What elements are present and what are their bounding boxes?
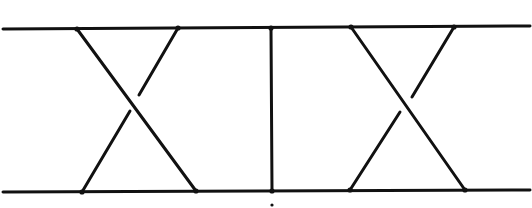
horizontal-lines [3,26,530,192]
left-crossing-under-strand-bottom [82,111,130,192]
right-crossing-under-strand-bottom [350,112,400,190]
node-dot [193,188,198,193]
left-crossing-under-strand-top [139,28,178,95]
node-dot [175,25,180,30]
node-dot [347,187,352,192]
left-crossing-over-strand [77,29,196,191]
node-dot [462,187,467,192]
node-dot [79,189,84,194]
bottom-mark [270,203,273,206]
braid-diagram [0,0,532,208]
vertical-strand [271,28,272,191]
node-dot [74,26,79,31]
node-dot [268,25,273,30]
middle-vertical [271,28,272,191]
mark-dot [270,203,273,206]
node-dot [348,24,353,29]
top-line [3,26,530,29]
node-dot [451,24,456,29]
right-crossing-over-strand [351,27,465,190]
node-dot [269,188,274,193]
right-crossing-under-strand-top [412,27,454,97]
